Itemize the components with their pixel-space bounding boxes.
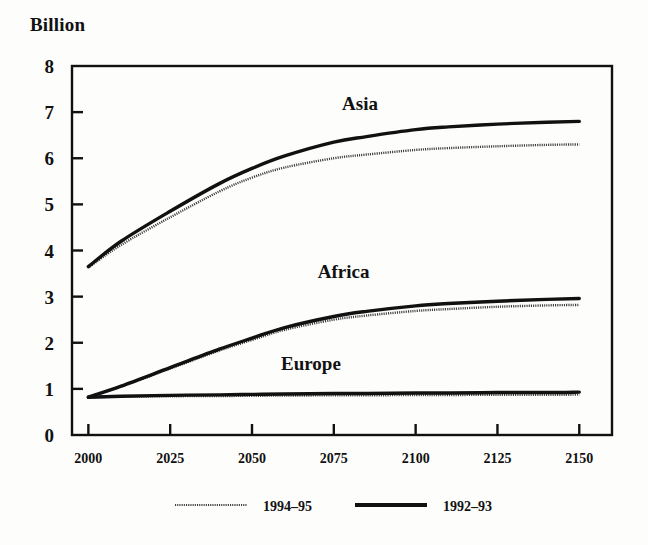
- chart-legend: 1994–951992–93: [175, 499, 492, 514]
- chart-page: Billion 876543210 2000202520502075210021…: [0, 0, 648, 545]
- x-axis-tick-labels: 2000202520502075210021252150: [74, 451, 593, 466]
- series-line-africa-1994-95: [88, 305, 579, 397]
- y-tick-label: 3: [45, 287, 55, 308]
- series-label-europe: Europe: [281, 353, 341, 374]
- y-tick-label: 0: [45, 425, 55, 446]
- y-tick-label: 5: [45, 194, 55, 215]
- legend-label-1992-93: 1992–93: [443, 499, 492, 514]
- y-tick-label: 7: [45, 102, 55, 123]
- series-line-asia-1992-93: [88, 121, 579, 266]
- x-tick-label: 2025: [156, 451, 184, 466]
- population-projection-chart: 876543210 2000202520502075210021252150 A…: [0, 0, 648, 545]
- x-tick-label: 2000: [74, 451, 102, 466]
- series-line-asia-1994-95: [88, 144, 579, 267]
- series-label-asia: Asia: [342, 93, 378, 114]
- x-tick-label: 2125: [483, 451, 511, 466]
- y-axis-ticks: [72, 112, 83, 389]
- y-tick-label: 8: [45, 56, 55, 77]
- series-label-africa: Africa: [318, 261, 370, 282]
- x-tick-label: 2100: [402, 451, 430, 466]
- series-annotations: AsiaAfricaEurope: [281, 93, 378, 374]
- y-tick-label: 2: [45, 333, 55, 354]
- y-tick-label: 1: [45, 379, 55, 400]
- x-tick-label: 2150: [565, 451, 593, 466]
- x-tick-label: 2075: [320, 451, 348, 466]
- y-tick-label: 4: [45, 241, 55, 262]
- x-axis-ticks: [88, 424, 579, 435]
- y-tick-label: 6: [45, 148, 55, 169]
- y-axis-tick-labels: 876543210: [45, 56, 55, 446]
- x-tick-label: 2050: [238, 451, 266, 466]
- series-line-africa-1992-93: [88, 298, 579, 397]
- series-line-europe-1992-93: [88, 392, 579, 397]
- legend-label-1994-95: 1994–95: [263, 499, 312, 514]
